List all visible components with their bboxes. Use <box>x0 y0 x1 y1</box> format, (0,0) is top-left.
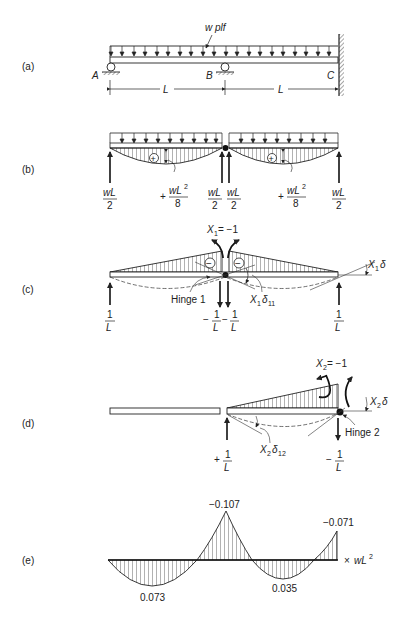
negative-sign-2: − <box>235 258 241 269</box>
moment-diagram-span-2 <box>229 148 338 164</box>
svg-text:1: 1 <box>232 309 238 320</box>
span-label-2: L <box>278 84 284 95</box>
svg-text:2: 2 <box>302 183 306 190</box>
panel-c-tag: (c) <box>22 284 34 295</box>
reaction-mid-left-b: wL 2 <box>208 187 222 211</box>
panel-d: (d) X 2 = −1 Hinge 2 X 2 δ <box>22 358 388 473</box>
svg-text:X: X <box>367 259 375 270</box>
svg-text:1: 1 <box>214 309 220 320</box>
moment-region-span1-positive <box>108 560 197 586</box>
reaction-right-c: 1 L <box>334 309 344 333</box>
svg-text:1: 1 <box>107 309 113 320</box>
reaction-mid-right-b: wL 2 <box>227 187 241 211</box>
panel-b: (b) <box>22 133 346 211</box>
svg-text:wL: wL <box>103 187 116 198</box>
end-rotation-x2-label: X 2 δ <box>369 396 388 409</box>
svg-text:2: 2 <box>107 200 113 211</box>
svg-text:−: − <box>222 314 228 325</box>
svg-text:×: × <box>344 555 350 566</box>
beam-d-right <box>227 408 338 414</box>
svg-text:11: 11 <box>268 300 275 307</box>
reaction-left-b: wL 2 <box>103 187 117 211</box>
value-fixed-end: −0.071 <box>323 517 354 528</box>
panel-a-tag: (a) <box>22 61 34 72</box>
panel-b-tag: (b) <box>22 164 34 175</box>
end-rotation-x1-label: X 1 δ <box>367 259 386 272</box>
svg-text:−: − <box>326 454 332 465</box>
load-label: w plf <box>205 22 227 33</box>
rotation-x2-delta12-label: X 2 δ 12 <box>259 444 286 457</box>
svg-text:8: 8 <box>293 198 299 209</box>
moment-region-fixed-end-negative <box>314 531 337 560</box>
svg-text:2: 2 <box>377 402 381 409</box>
svg-text:2: 2 <box>212 200 218 211</box>
svg-text:wL: wL <box>332 187 345 198</box>
value-span2: 0.035 <box>272 583 297 594</box>
reaction-left-d: + 1 L <box>214 449 232 473</box>
negative-sign-1: − <box>206 258 212 269</box>
reaction-mid-2-c: − 1 L <box>222 309 239 333</box>
svg-text:2: 2 <box>184 183 188 190</box>
moment-diagram-x1-right <box>229 251 338 272</box>
svg-text:L: L <box>213 322 219 333</box>
moment-diagram-x2 <box>227 384 338 408</box>
value-span1: 0.073 <box>140 592 165 603</box>
moment-label-1: + wL 2 8 <box>160 183 188 209</box>
svg-text:1: 1 <box>337 449 343 460</box>
svg-text:L: L <box>336 462 342 473</box>
panel-c: (c) X 1 = −1 − − <box>22 224 386 333</box>
span-label-1: L <box>163 84 169 95</box>
svg-text:+: + <box>278 191 284 202</box>
svg-text:X: X <box>259 444 267 455</box>
svg-text:X: X <box>315 358 323 369</box>
panel-a: (a) <box>22 22 344 96</box>
unit-moment-right-arrow-d <box>346 377 352 407</box>
svg-text:= −1: = −1 <box>327 358 347 369</box>
hinge-b <box>223 145 229 151</box>
support-label-a: A <box>91 70 99 81</box>
svg-text:L: L <box>106 322 112 333</box>
svg-text:X: X <box>249 294 257 305</box>
dimension-lines <box>110 80 338 95</box>
reaction-left-c: 1 L <box>105 309 115 333</box>
positive-sign-2: + <box>269 154 274 164</box>
svg-text:12: 12 <box>278 450 286 457</box>
moment-region-span2-positive <box>252 560 314 579</box>
panel-e: (e) −0.107 −0.071 0.073 0.035 × wL 2 <box>22 499 373 603</box>
value-support-b: −0.107 <box>209 499 240 510</box>
support-label-b: B <box>206 70 213 81</box>
svg-text:2: 2 <box>231 200 237 211</box>
svg-text:1: 1 <box>225 449 231 460</box>
svg-text:8: 8 <box>175 198 181 209</box>
reaction-right-b: wL 2 <box>332 187 346 211</box>
svg-text:+: + <box>160 191 166 202</box>
support-label-c: C <box>327 70 335 81</box>
svg-text:1: 1 <box>336 309 342 320</box>
svg-text:+: + <box>214 454 220 465</box>
svg-text:1: 1 <box>257 300 261 307</box>
svg-text:L: L <box>231 322 237 333</box>
distributed-load <box>109 46 338 57</box>
beam <box>110 57 338 63</box>
moment-region-support-b-negative <box>197 511 252 560</box>
svg-text:2: 2 <box>336 200 342 211</box>
svg-text:X: X <box>206 224 214 235</box>
reaction-mid-1-c: − 1 L <box>203 309 221 333</box>
svg-text:wL: wL <box>227 187 240 198</box>
svg-text:2: 2 <box>369 553 373 560</box>
roller-support-a <box>102 63 120 75</box>
unit-label: × wL 2 <box>344 553 373 566</box>
moment-label-2: + wL 2 8 <box>278 183 306 209</box>
svg-text:wL: wL <box>354 555 367 566</box>
svg-text:L: L <box>224 462 230 473</box>
fixed-support-c <box>339 34 344 96</box>
reaction-right-d: − 1 L <box>326 449 344 473</box>
beam-d-left <box>110 408 220 414</box>
svg-text:X: X <box>369 396 377 407</box>
svg-text:δ: δ <box>380 259 386 270</box>
structural-analysis-figure: (a) <box>0 0 404 618</box>
deflected-shape-c <box>110 277 338 289</box>
distributed-load-b <box>110 133 338 143</box>
redundant-x2-label: X 2 = −1 <box>315 358 347 371</box>
panel-e-tag: (e) <box>22 555 34 566</box>
